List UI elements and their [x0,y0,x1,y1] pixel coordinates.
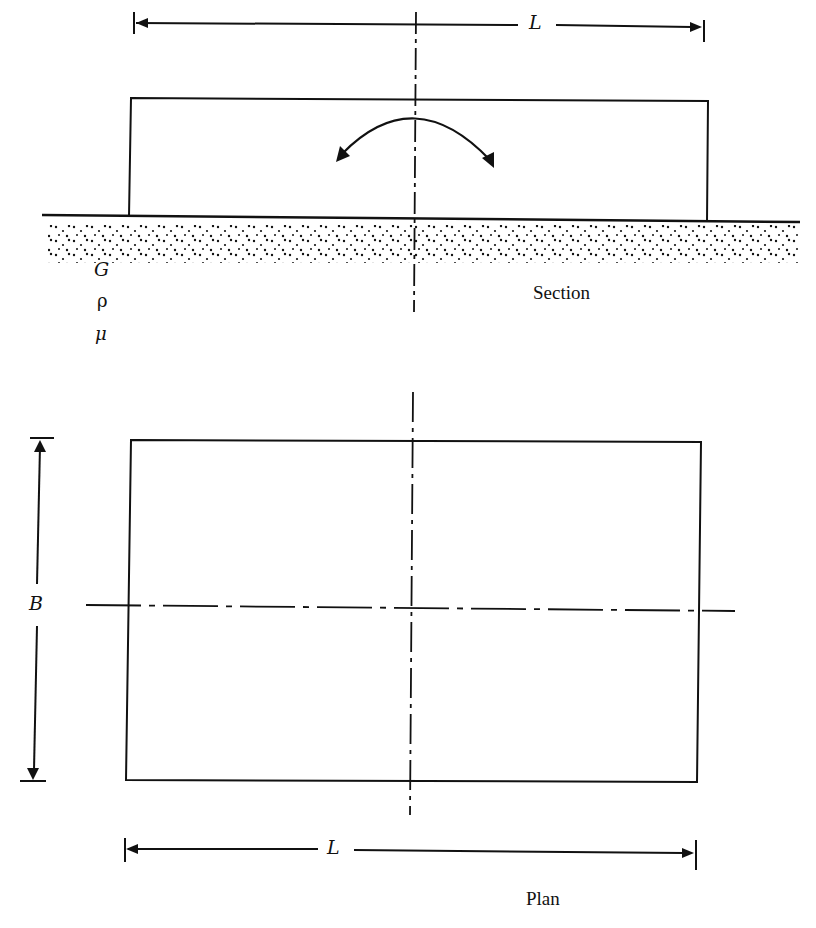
plan-centerline-horizontal [86,605,735,611]
section-view [42,12,800,312]
section-caption: Section [533,282,590,304]
shear-modulus-label: G [94,258,109,280]
plan-caption: Plan [526,888,560,910]
section-dimension-l [134,12,704,42]
plan-length-label: L [327,836,340,858]
soil-hatching [48,225,798,263]
footing-section [129,98,708,222]
poisson-ratio-label: μ [95,323,107,344]
foundation-diagram [0,0,816,928]
section-centerline [414,12,416,312]
plan-width-label: B [29,592,43,614]
footing-plan [126,440,701,782]
section-length-label: L [529,11,542,33]
plan-view [20,392,735,870]
plan-dimension-l [125,838,696,870]
density-label: ρ [97,290,108,311]
plan-centerline-vertical [410,392,413,815]
ground-line [42,215,800,222]
